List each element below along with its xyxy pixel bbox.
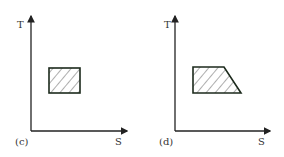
hatched-rectangle — [49, 68, 80, 93]
s-axis-label: S — [115, 136, 122, 147]
s-axis-label: S — [258, 136, 265, 147]
t-axis-label: T — [164, 19, 171, 30]
t-axis-label: T — [17, 19, 24, 30]
hatched-trapezoid — [193, 67, 241, 93]
panel-caption: (d) — [159, 136, 173, 147]
ts-diagrams: T S (c) T S (d) — [0, 0, 284, 157]
panel-d: T S (d) — [159, 16, 270, 147]
panel-caption: (c) — [15, 136, 29, 147]
panel-c: T S (c) — [15, 16, 127, 147]
